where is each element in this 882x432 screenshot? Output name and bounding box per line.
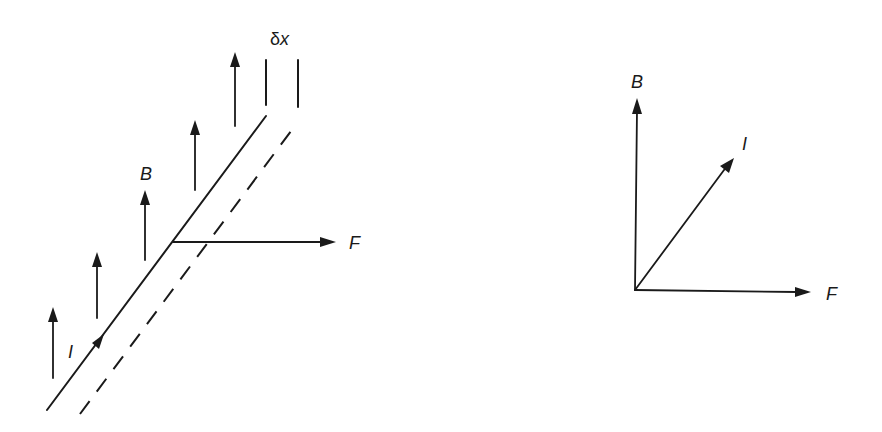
current-vector-right bbox=[635, 158, 734, 290]
field-vector-right bbox=[632, 98, 642, 290]
force-label-left: F bbox=[349, 233, 361, 253]
conductor-wire bbox=[47, 116, 266, 410]
current-label-left: I bbox=[68, 342, 73, 362]
field-arrow-1 bbox=[48, 307, 58, 378]
figure-canvas: I B δx bbox=[0, 0, 882, 432]
force-label-right: F bbox=[826, 284, 838, 304]
displaced-conductor-dashed bbox=[80, 123, 297, 414]
right-diagram: B I F bbox=[631, 72, 838, 304]
arrowhead-icon bbox=[92, 252, 102, 267]
arrowhead-icon bbox=[230, 52, 240, 67]
arrowhead-icon bbox=[320, 237, 336, 247]
force-vector-right bbox=[635, 287, 811, 297]
force-arrow-left bbox=[173, 237, 336, 247]
displacement-label: δx bbox=[270, 29, 290, 49]
arrowhead-icon bbox=[632, 98, 642, 114]
field-label-left: B bbox=[140, 164, 152, 184]
field-arrow-4 bbox=[190, 120, 200, 190]
arrowhead-icon bbox=[795, 287, 811, 297]
left-diagram: I B δx bbox=[47, 29, 361, 414]
force-on-current-diagram: I B δx bbox=[0, 0, 882, 432]
current-label-right: I bbox=[742, 134, 747, 154]
field-arrow-2 bbox=[92, 252, 102, 318]
field-label-right: B bbox=[631, 72, 643, 92]
field-arrow-3 bbox=[140, 190, 150, 260]
arrowhead-icon bbox=[48, 307, 58, 322]
arrowhead-icon bbox=[720, 158, 734, 173]
arrowhead-icon bbox=[140, 190, 150, 205]
field-arrow-5 bbox=[230, 52, 240, 126]
arrowhead-icon bbox=[190, 120, 200, 135]
